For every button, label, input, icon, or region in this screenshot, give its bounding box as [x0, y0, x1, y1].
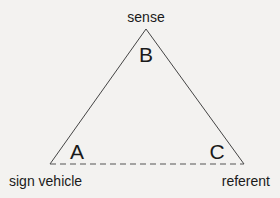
label-referent: referent: [222, 173, 270, 189]
vertex-b: B: [139, 43, 153, 66]
vertex-c: C: [209, 140, 224, 163]
edge-b-c: [146, 29, 244, 164]
edge-a-b: [50, 29, 146, 164]
semiotic-triangle-diagram: sense B A C sign vehicle referent: [0, 0, 280, 198]
label-sign-vehicle: sign vehicle: [9, 173, 82, 189]
vertex-a: A: [70, 140, 84, 163]
label-sense: sense: [127, 9, 165, 25]
